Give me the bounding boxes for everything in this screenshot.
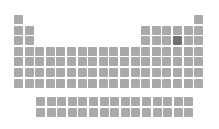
element-cell <box>141 36 150 45</box>
element-cell <box>56 57 65 66</box>
actinides-cell <box>142 108 151 117</box>
element-cell <box>141 47 150 56</box>
element-cell <box>25 36 34 45</box>
element-cell <box>184 47 193 56</box>
lanthanides-cell <box>47 97 56 106</box>
lanthanides-cell <box>153 97 162 106</box>
lanthanides-cell <box>57 97 66 106</box>
element-cell <box>120 68 129 77</box>
lanthanides-cell <box>78 97 87 106</box>
element-cell <box>162 36 171 45</box>
element-cell <box>99 57 108 66</box>
element-cell <box>46 47 55 56</box>
element-cell <box>194 15 203 24</box>
element-cell <box>14 26 23 35</box>
element-cell <box>184 57 193 66</box>
actinides-cell <box>163 108 172 117</box>
element-cell <box>194 57 203 66</box>
element-cell <box>88 68 97 77</box>
element-cell <box>67 47 76 56</box>
element-cell <box>78 47 87 56</box>
element-cell <box>162 26 171 35</box>
element-cell <box>78 79 87 88</box>
element-cell <box>56 79 65 88</box>
element-cell <box>99 79 108 88</box>
element-cell <box>109 68 118 77</box>
element-cell <box>152 68 161 77</box>
actinides-cell <box>78 108 87 117</box>
element-cell <box>56 47 65 56</box>
element-cell <box>184 79 193 88</box>
lanthanides-cell <box>68 97 77 106</box>
lanthanides-cell <box>174 97 183 106</box>
element-cell <box>109 79 118 88</box>
actinides-cell <box>100 108 109 117</box>
element-cell <box>141 68 150 77</box>
element-cell <box>152 57 161 66</box>
element-cell <box>14 68 23 77</box>
element-cell <box>14 79 23 88</box>
actinides-cell <box>121 108 130 117</box>
lanthanides-cell <box>184 97 193 106</box>
element-cell <box>162 57 171 66</box>
highlighted-element-cell <box>173 36 182 45</box>
lanthanides-cell <box>142 97 151 106</box>
element-cell <box>14 57 23 66</box>
lanthanides-cell <box>110 97 119 106</box>
element-cell <box>56 68 65 77</box>
element-cell <box>120 79 129 88</box>
element-cell <box>141 26 150 35</box>
actinides-cell <box>57 108 66 117</box>
periodic-table <box>0 0 219 129</box>
element-cell <box>88 47 97 56</box>
element-cell <box>109 47 118 56</box>
element-cell <box>35 47 44 56</box>
element-cell <box>46 79 55 88</box>
element-cell <box>46 68 55 77</box>
element-cell <box>141 79 150 88</box>
element-cell <box>194 68 203 77</box>
element-cell <box>173 47 182 56</box>
element-cell <box>14 47 23 56</box>
element-cell <box>152 79 161 88</box>
element-cell <box>25 26 34 35</box>
lanthanides-cell <box>131 97 140 106</box>
element-cell <box>78 57 87 66</box>
element-cell <box>152 47 161 56</box>
element-cell <box>173 68 182 77</box>
element-cell <box>173 57 182 66</box>
element-cell <box>141 57 150 66</box>
element-cell <box>173 79 182 88</box>
element-cell <box>67 68 76 77</box>
element-cell <box>131 79 140 88</box>
element-cell <box>184 26 193 35</box>
actinides-cell <box>68 108 77 117</box>
lanthanides-cell <box>36 97 45 106</box>
element-cell <box>99 47 108 56</box>
element-cell <box>120 47 129 56</box>
actinides-cell <box>184 108 193 117</box>
element-cell <box>67 57 76 66</box>
element-cell <box>109 57 118 66</box>
actinides-cell <box>110 108 119 117</box>
element-cell <box>88 79 97 88</box>
element-cell <box>25 68 34 77</box>
element-cell <box>152 26 161 35</box>
element-cell <box>173 26 182 35</box>
element-cell <box>152 36 161 45</box>
lanthanides-cell <box>163 97 172 106</box>
element-cell <box>14 36 23 45</box>
element-cell <box>25 57 34 66</box>
element-cell <box>14 15 23 24</box>
actinides-cell <box>36 108 45 117</box>
element-cell <box>194 79 203 88</box>
element-cell <box>131 47 140 56</box>
element-cell <box>25 79 34 88</box>
element-cell <box>78 68 87 77</box>
element-cell <box>184 36 193 45</box>
element-cell <box>131 57 140 66</box>
element-cell <box>25 47 34 56</box>
element-cell <box>184 68 193 77</box>
actinides-cell <box>153 108 162 117</box>
element-cell <box>131 68 140 77</box>
